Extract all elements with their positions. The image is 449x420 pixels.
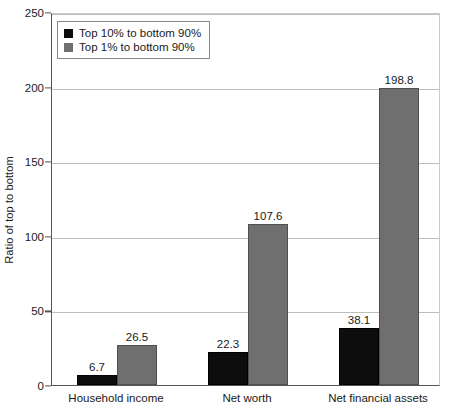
category-label: Net worth	[222, 392, 271, 404]
bar-value-label: 38.1	[348, 314, 370, 326]
y-tick-label: 150	[12, 156, 44, 168]
bar-top10-2	[339, 328, 379, 385]
bar-top1-2	[379, 88, 419, 385]
category-label: Household income	[68, 392, 163, 404]
bar-top10-0	[77, 375, 117, 385]
bar-value-label: 22.3	[217, 338, 239, 350]
legend-swatch-gray-icon	[64, 43, 73, 52]
y-tick-label: 100	[12, 231, 44, 243]
legend-swatch-black-icon	[64, 29, 73, 38]
legend-item-top10: Top 10% to bottom 90%	[64, 26, 201, 40]
plot-area: 6.726.522.3107.638.1198.8 Top 10% to bot…	[51, 13, 440, 386]
category-label: Net financial assets	[328, 392, 428, 404]
bar-chart: Ratio of top to bottom 050100150200250 6…	[0, 0, 449, 420]
y-tick-label: 0	[12, 380, 44, 392]
y-tick-label: 250	[12, 7, 44, 19]
legend-label-top10: Top 10% to bottom 90%	[79, 27, 201, 39]
legend-label-top1: Top 1% to bottom 90%	[79, 41, 195, 53]
y-tick-label: 50	[12, 305, 44, 317]
y-tick-label: 200	[12, 82, 44, 94]
gridline	[52, 14, 439, 15]
bar-value-label: 107.6	[254, 210, 283, 222]
y-axis-title: Ratio of top to bottom	[0, 0, 18, 420]
bar-value-label: 26.5	[126, 331, 148, 343]
bar-top1-1	[248, 224, 288, 385]
bar-value-label: 198.8	[385, 74, 414, 86]
bar-value-label: 6.7	[89, 361, 105, 373]
legend: Top 10% to bottom 90% Top 1% to bottom 9…	[57, 21, 210, 59]
legend-item-top1: Top 1% to bottom 90%	[64, 40, 201, 54]
bar-top1-0	[117, 345, 157, 385]
bar-top10-1	[208, 352, 248, 385]
